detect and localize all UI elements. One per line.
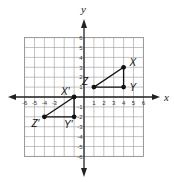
y-axis-arrow-up: [81, 19, 87, 28]
coordinate-plane: x y -6-5-4-3123456654321-1-2-3-4-5-6 XYZ…: [0, 0, 174, 182]
vertex-x: [121, 65, 126, 70]
x-tick-label: -4: [42, 100, 48, 106]
vertex-label-y-prime: Y′: [64, 119, 74, 130]
vertex-z: [92, 85, 97, 90]
vertex-y: [121, 85, 126, 90]
x-tick-label: -3: [52, 100, 58, 106]
vertex-label-z-prime: Z′: [30, 118, 40, 129]
y-tick-label: -6: [77, 154, 83, 160]
x-tick-label: 4: [122, 100, 126, 106]
y-tick-label: -3: [77, 124, 83, 130]
x-tick-label: 2: [102, 100, 106, 106]
y-axis-arrow-down: [81, 168, 87, 177]
vertex-x-prime: [72, 95, 77, 100]
y-tick-label: -1: [77, 104, 83, 110]
vertex-label-z: Z: [81, 76, 89, 87]
x-axis-label: x: [163, 91, 169, 103]
axes: x y: [8, 3, 169, 177]
vertex-z-prime: [42, 114, 47, 119]
x-axis-arrow-right: [152, 94, 160, 100]
x-axis-arrow-left: [8, 94, 16, 100]
vertex-label-x-prime: X′: [60, 86, 71, 97]
y-tick-label: -4: [77, 134, 83, 140]
y-tick-label: -5: [77, 144, 83, 150]
x-tick-label: -5: [32, 100, 38, 106]
y-tick-label: -2: [77, 114, 83, 120]
x-tick-label: 1: [92, 100, 96, 106]
vertex-label-x: X: [129, 57, 137, 68]
x-tick-label: 3: [112, 100, 116, 106]
y-axis-label: y: [80, 3, 86, 15]
x-tick-label: -6: [22, 100, 28, 106]
x-tick-label: 5: [132, 100, 136, 106]
vertex-label-y: Y: [130, 82, 138, 93]
x-tick-label: 6: [142, 100, 146, 106]
